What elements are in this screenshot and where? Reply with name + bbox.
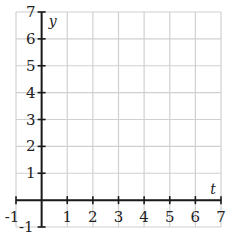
x-tick-label: -1 — [5, 208, 20, 226]
grid-lines — [16, 12, 221, 227]
y-tick-label: 6 — [26, 30, 36, 48]
x-tick-label: 1 — [62, 208, 72, 226]
x-tick-label: 6 — [191, 208, 201, 226]
y-axis-label: y — [48, 13, 58, 29]
y-tick-label: 3 — [26, 111, 36, 129]
y-tick-label: 7 — [26, 3, 36, 21]
y-tick-label: 5 — [26, 57, 36, 75]
x-tick-label: 7 — [216, 208, 226, 226]
y-tick-label: 2 — [26, 137, 36, 155]
x-axis-label: t — [210, 181, 216, 197]
x-tick-label: 4 — [139, 208, 149, 226]
coordinate-plane: -11234567-11234567 t y — [0, 0, 238, 243]
y-tick-label: 1 — [26, 164, 36, 182]
y-tick-label: 4 — [26, 84, 36, 102]
y-tick-label: -1 — [19, 218, 34, 236]
x-tick-label: 2 — [88, 208, 98, 226]
x-tick-label: 3 — [114, 208, 124, 226]
x-tick-label: 5 — [165, 208, 175, 226]
